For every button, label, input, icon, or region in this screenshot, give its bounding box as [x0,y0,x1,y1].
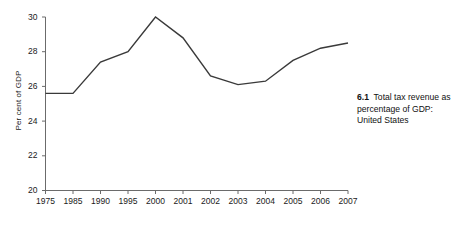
y-axis-ticks [42,17,46,191]
y-tick-label: 30 [16,12,38,22]
line-chart-svg [0,0,360,215]
figure-container: Per cent of GDP 202224262830 19751985199… [0,0,460,225]
y-tick-label: 22 [16,150,38,160]
x-axis-ticks [46,191,349,195]
figure-caption: 6.1 Total tax revenue as percentage of G… [357,92,457,127]
chart-plot-area: Per cent of GDP 202224262830 19751985199… [0,0,360,215]
x-tick-label: 2007 [331,196,365,206]
y-tick-label: 20 [16,185,38,195]
y-tick-label: 28 [16,46,38,56]
y-tick-label: 24 [16,116,38,126]
y-axis-title: Per cent of GDP [14,41,23,161]
figure-caption-number: 6.1 [357,92,369,102]
y-tick-label: 26 [16,81,38,91]
data-series-line [46,17,349,93]
